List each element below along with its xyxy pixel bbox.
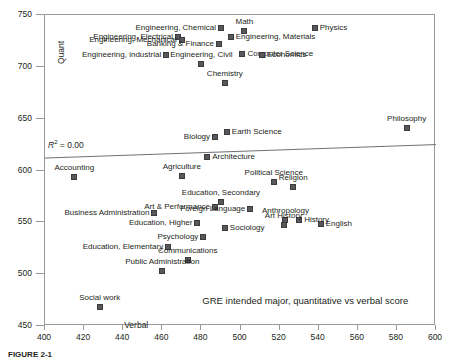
y-axis-tick: [36, 66, 44, 67]
y-axis-tick: [36, 221, 44, 222]
data-point-marker[interactable]: [222, 80, 228, 86]
trendline: [45, 15, 436, 326]
data-point-marker[interactable]: [218, 25, 224, 31]
figure-scatter-gre: 450500550600650700750 400420440460480500…: [0, 0, 451, 361]
data-point-marker[interactable]: [151, 210, 157, 216]
data-point-marker[interactable]: [212, 134, 218, 140]
x-axis-tick-label: 500: [220, 333, 260, 342]
data-point-label: Philosophy: [387, 115, 426, 124]
data-point-marker[interactable]: [71, 174, 77, 180]
data-point-label: Public Administration: [125, 258, 199, 267]
data-point-label: Sociology: [230, 223, 265, 232]
data-point-label: Education, Elementary: [83, 243, 164, 252]
x-axis-tick-label: 480: [180, 333, 220, 342]
data-point-label: Engineering, Civil: [170, 51, 232, 60]
data-point-label: English: [326, 220, 352, 229]
data-point-marker[interactable]: [198, 61, 204, 67]
data-point-label: Agriculture: [163, 163, 201, 172]
y-axis-tick: [36, 14, 44, 15]
x-axis-tick-label: 520: [259, 333, 299, 342]
chart-title: GRE intended major, quantitative vs verb…: [202, 295, 408, 306]
y-axis-tick-label: 550: [0, 217, 32, 226]
data-point-label: Accounting: [55, 164, 95, 173]
plot-area: MathPhysicsEngineering, ChemicalEngineer…: [44, 14, 435, 325]
data-point-label: Education, Higher: [129, 219, 193, 228]
data-point-marker[interactable]: [179, 173, 185, 179]
data-point-marker[interactable]: [290, 184, 296, 190]
y-axis-tick-label: 650: [0, 114, 32, 123]
data-point-marker[interactable]: [97, 304, 103, 310]
data-point-label: Communications: [158, 247, 218, 256]
data-point-marker[interactable]: [222, 225, 228, 231]
data-point-marker[interactable]: [224, 129, 230, 135]
data-point-label: Engineering, industrial: [82, 51, 161, 60]
data-point-label: Engineering, Materials: [236, 33, 316, 42]
r-squared-annotation: R2 = 0.00: [48, 139, 84, 150]
y-axis-tick: [36, 170, 44, 171]
data-point-marker[interactable]: [318, 221, 324, 227]
data-point-marker[interactable]: [159, 268, 165, 274]
y-axis-tick-label: 500: [0, 269, 32, 278]
data-point-label: Psychology: [157, 233, 198, 242]
y-axis-tick: [36, 118, 44, 119]
data-point-marker[interactable]: [204, 154, 210, 160]
x-axis-title: Verbal: [124, 320, 148, 330]
x-axis-tick-label: 560: [337, 333, 377, 342]
y-axis-tick-label: 700: [0, 62, 32, 71]
y-axis-tick: [36, 273, 44, 274]
y-axis-tick-label: 450: [0, 321, 32, 330]
x-axis-tick-label: 420: [63, 333, 103, 342]
y-axis-tick-label: 750: [0, 10, 32, 19]
data-point-marker[interactable]: [228, 34, 234, 40]
y-axis-tick-label: 600: [0, 166, 32, 175]
data-point-marker[interactable]: [247, 206, 253, 212]
data-point-marker[interactable]: [216, 41, 222, 47]
data-point-marker[interactable]: [259, 52, 265, 58]
data-point-label: Social work: [79, 294, 120, 303]
data-point-label: Economics: [267, 51, 306, 60]
y-axis-title: Quant: [56, 41, 66, 64]
data-point-label: Chemistry: [207, 70, 243, 79]
data-point-label: Math: [236, 18, 254, 27]
data-point-label: Banking & Finance: [147, 40, 214, 49]
data-point-label: Education, Secondary: [182, 189, 260, 198]
data-point-label: Foreign Language: [180, 205, 245, 214]
data-point-label: Physics: [320, 24, 348, 33]
data-point-label: Religion: [279, 174, 308, 183]
data-point-label: Earth Science: [232, 128, 282, 137]
data-point-marker[interactable]: [194, 220, 200, 226]
data-point-marker[interactable]: [163, 52, 169, 58]
data-point-marker[interactable]: [404, 125, 410, 131]
data-point-label: Biology: [184, 133, 210, 142]
data-point-label: Business Administration: [65, 209, 150, 218]
data-point-marker[interactable]: [239, 51, 245, 57]
y-axis-tick: [36, 325, 44, 326]
data-point-marker[interactable]: [281, 222, 287, 228]
x-axis-tick-label: 460: [141, 333, 181, 342]
figure-caption: FIGURE 2-1: [8, 350, 52, 359]
x-axis-tick-label: 400: [24, 333, 64, 342]
data-point-marker[interactable]: [200, 234, 206, 240]
x-axis-tick-label: 440: [102, 333, 142, 342]
data-point-label: Art History: [265, 212, 302, 221]
x-axis-tick-label: 580: [376, 333, 416, 342]
x-axis-tick-label: 600: [415, 333, 451, 342]
data-point-label: Architecture: [212, 153, 255, 162]
data-point-marker[interactable]: [271, 179, 277, 185]
x-axis-tick-label: 540: [298, 333, 338, 342]
